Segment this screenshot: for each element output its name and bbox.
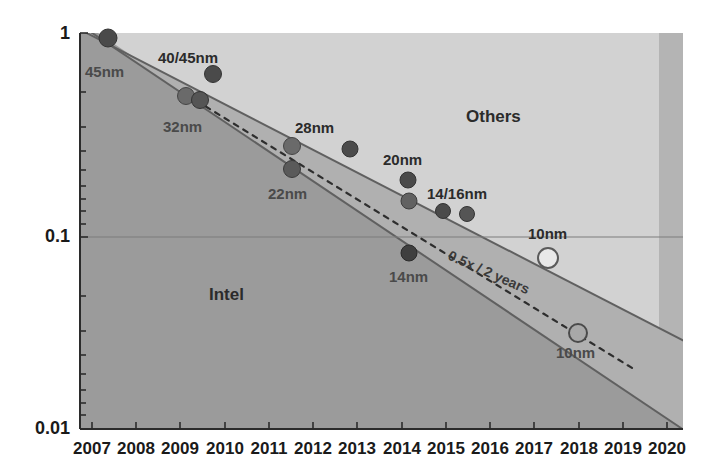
y-tick-label-0p1: 0.1: [12, 227, 70, 245]
point-label-45nm: 45nm: [85, 64, 124, 79]
point-label-10nm-intel: 10nm: [556, 345, 595, 360]
marker-20nm[interactable]: [400, 172, 416, 188]
marker-45nm[interactable]: [99, 29, 117, 47]
x-tick-label-2020: 2020: [637, 440, 697, 457]
region-label-others: Others: [466, 108, 521, 125]
marker-22nm-lower[interactable]: [284, 161, 301, 178]
marker-14-16nm-a[interactable]: [436, 204, 451, 219]
marker-32nm-others[interactable]: [192, 92, 209, 109]
marker-14nm[interactable]: [401, 245, 417, 261]
point-label-20nm: 20nm: [383, 152, 422, 167]
point-label-14nm: 14nm: [389, 269, 428, 284]
marker-20nm-b[interactable]: [401, 193, 417, 209]
point-label-40-45nm: 40/45nm: [158, 50, 218, 65]
marker-10nm-intel[interactable]: [569, 324, 587, 342]
point-label-14-16nm: 14/16nm: [427, 186, 487, 201]
point-label-10nm-others: 10nm: [528, 226, 567, 241]
y-tick-label-1: 1: [22, 24, 70, 42]
point-label-28nm: 28nm: [295, 120, 334, 135]
marker-14-16nm-b[interactable]: [460, 207, 475, 222]
chart-figure: 1 0.1 0.01 2007 2008 2009 2010 2011 2012…: [0, 0, 724, 472]
marker-10nm-others[interactable]: [538, 248, 558, 268]
marker-22nm-upper[interactable]: [284, 138, 301, 155]
point-label-22nm: 22nm: [268, 186, 307, 201]
marker-28nm-b[interactable]: [342, 141, 358, 157]
region-label-intel: Intel: [209, 286, 244, 303]
y-tick-label-0p01: 0.01: [2, 419, 70, 437]
point-label-32nm: 32nm: [163, 119, 202, 134]
marker-40-45nm[interactable]: [205, 66, 222, 83]
